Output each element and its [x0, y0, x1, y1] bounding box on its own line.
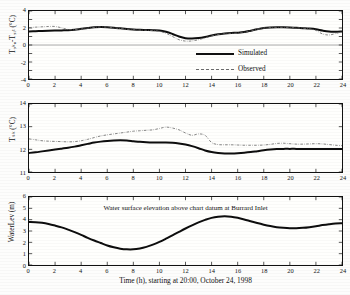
- x-tick-label: 6: [100, 267, 114, 274]
- y-tick-label: 2: [12, 24, 26, 31]
- x-tick-label: 8: [126, 81, 140, 88]
- x-tick-label: 12: [179, 267, 193, 274]
- panel3-annotation: Water surface elevation above chart datu…: [28, 204, 343, 212]
- panel-temperature-difference: T₉ₖₒ-T₉ᵢₜ (°C) 420-2-4 02468101214161820…: [0, 0, 350, 95]
- x-tick-label: 8: [126, 174, 140, 181]
- x-tick-label: 10: [152, 267, 166, 274]
- x-tick-label: 0: [21, 267, 35, 274]
- x-tick-label: 6: [100, 81, 114, 88]
- panel1-curves: [29, 11, 342, 79]
- x-tick-label: 24: [336, 174, 350, 181]
- x-tick-label: 0: [21, 174, 35, 181]
- x-tick-label: 6: [100, 174, 114, 181]
- y-tick-label: 2: [12, 239, 26, 246]
- legend-label-observed: Observed: [238, 65, 266, 73]
- x-tick-label: 2: [47, 174, 61, 181]
- panel2-curves: [29, 104, 342, 172]
- y-tick-label: 5: [12, 204, 26, 211]
- x-tick-label: 12: [179, 81, 193, 88]
- x-tick-label: 20: [284, 174, 298, 181]
- x-tick-label: 16: [231, 174, 245, 181]
- y-tick-label: 14: [12, 99, 26, 106]
- panel2-plot-area: [28, 103, 343, 173]
- x-tick-label: 10: [152, 81, 166, 88]
- x-tick-label: 22: [310, 174, 324, 181]
- x-tick-label: 14: [205, 267, 219, 274]
- x-tick-label: 18: [257, 81, 271, 88]
- legend-label-simulated: Simulated: [238, 49, 267, 57]
- x-tick-label: 18: [257, 174, 271, 181]
- x-tick-label: 20: [284, 81, 298, 88]
- x-tick-label: 4: [74, 267, 88, 274]
- y-tick-label: -2: [12, 59, 26, 66]
- y-tick-label: 3: [12, 227, 26, 234]
- x-tick-label: 20: [284, 267, 298, 274]
- x-tick-label: 14: [205, 174, 219, 181]
- x-tick-label: 10: [152, 174, 166, 181]
- x-tick-label: 2: [47, 81, 61, 88]
- x-tick-label: 12: [179, 174, 193, 181]
- x-tick-label: 14: [205, 81, 219, 88]
- panel-surface-temperature: Tₛₖ (°C) 14131211 024681012141618202224: [0, 95, 350, 190]
- y-tick-label: 12: [12, 146, 26, 153]
- x-tick-label: 4: [74, 81, 88, 88]
- x-tick-label: 4: [74, 174, 88, 181]
- y-tick-label: 1: [12, 250, 26, 257]
- panel-water-level: WaterLev (m) Water surface elevation abo…: [0, 190, 350, 295]
- x-tick-label: 18: [257, 267, 271, 274]
- panel1-plot-area: [28, 10, 343, 80]
- y-tick-label: 6: [12, 192, 26, 199]
- x-tick-label: 24: [336, 81, 350, 88]
- x-tick-label: 22: [310, 81, 324, 88]
- panel1-y-axis-label: T₉ₖₒ-T₉ᵢₜ (°C): [8, 5, 17, 65]
- y-tick-label: 4: [12, 215, 26, 222]
- x-tick-label: 22: [310, 267, 324, 274]
- x-tick-label: 16: [231, 267, 245, 274]
- x-tick-label: 24: [336, 267, 350, 274]
- x-tick-label: 0: [21, 81, 35, 88]
- x-tick-label: 8: [126, 267, 140, 274]
- y-tick-label: 4: [12, 6, 26, 13]
- legend-swatch-simulated: [196, 53, 234, 55]
- x-tick-label: 16: [231, 81, 245, 88]
- x-axis-label: Time (h), starting at 20:00, October 24,…: [28, 276, 343, 285]
- legend-swatch-observed: [196, 69, 234, 70]
- figure-root: T₉ₖₒ-T₉ᵢₜ (°C) 420-2-4 02468101214161820…: [0, 0, 350, 295]
- y-tick-label: 13: [12, 122, 26, 129]
- x-tick-label: 2: [47, 267, 61, 274]
- y-tick-label: 0: [12, 41, 26, 48]
